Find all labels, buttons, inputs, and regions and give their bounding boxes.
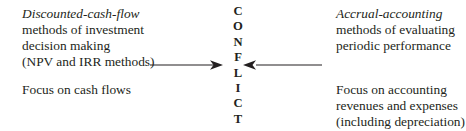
left-bottom-text-block: Focus on cash flows bbox=[22, 82, 131, 98]
left-top-line-3: decision making bbox=[22, 38, 155, 54]
conflict-letter-7: C bbox=[228, 96, 248, 111]
conflict-diagram: Discounted-cash-flow methods of investme… bbox=[0, 0, 466, 131]
right-top-line-1: Accrual-accounting bbox=[336, 6, 455, 22]
right-top-line-3: periodic performance bbox=[336, 38, 455, 54]
right-top-text-block: Accrual-accounting methods of evaluating… bbox=[336, 6, 455, 54]
left-top-text-block: Discounted-cash-flow methods of investme… bbox=[22, 6, 155, 70]
conflict-letter-1: C bbox=[228, 4, 248, 19]
left-top-line-4: (NPV and IRR methods) bbox=[22, 54, 155, 70]
right-bottom-line-1: Focus on accounting bbox=[336, 82, 465, 98]
right-top-line-2: methods of evaluating bbox=[336, 22, 455, 38]
conflict-letter-3: N bbox=[228, 35, 248, 50]
conflict-letter-2: O bbox=[228, 19, 248, 34]
arrow-left-to-center-icon bbox=[150, 57, 224, 73]
arrow-right-to-center-icon bbox=[242, 57, 322, 73]
right-bottom-text-block: Focus on accounting revenues and expense… bbox=[336, 82, 465, 130]
left-top-line-2: methods of investment bbox=[22, 22, 155, 38]
right-bottom-line-2: revenues and expenses bbox=[336, 98, 465, 114]
conflict-letter-8: T bbox=[228, 112, 248, 127]
left-top-line-1: Discounted-cash-flow bbox=[22, 6, 155, 22]
left-bottom-line-1: Focus on cash flows bbox=[22, 82, 131, 98]
right-bottom-line-3: (including depreciation) bbox=[336, 114, 465, 130]
conflict-letter-6: I bbox=[228, 81, 248, 96]
